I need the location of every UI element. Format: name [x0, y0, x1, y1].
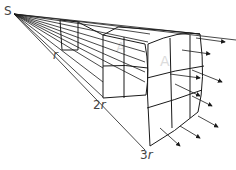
grid-2r [103, 27, 160, 98]
distance-label-3r: 3r [140, 148, 153, 162]
arrows [160, 38, 225, 146]
inverse-square-diagram: A A [0, 0, 236, 170]
grid-3r [147, 30, 204, 146]
source-label: S [4, 4, 12, 18]
diagram-canvas: A A [0, 0, 236, 170]
distance-label-r: r [53, 48, 58, 62]
svg-text:A: A [160, 53, 170, 69]
distance-label-2r: 2r [93, 98, 106, 112]
